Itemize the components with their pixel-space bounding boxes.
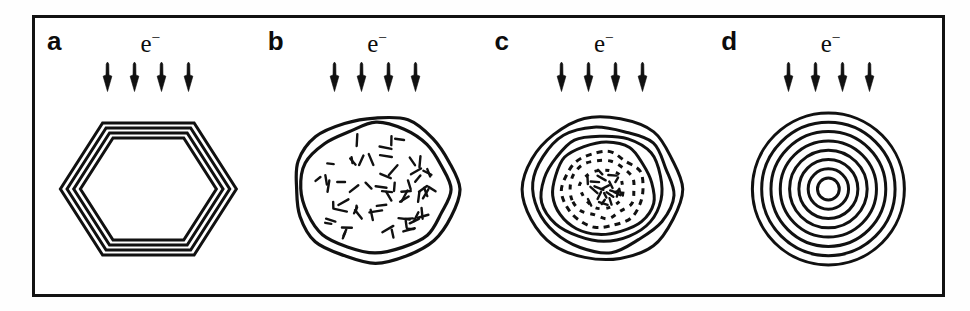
electron-symbol: e — [821, 30, 832, 57]
figure-root: ae−be−ce−de− — [0, 0, 970, 311]
electron-beam-arrow-icon — [836, 62, 849, 92]
structure-c — [489, 100, 716, 278]
disordered-carbon-dashes — [315, 134, 435, 238]
electron-beam-label-d: e− — [821, 30, 841, 56]
electron-charge-superscript: − — [605, 29, 614, 46]
panel-letter-c: c — [495, 28, 509, 54]
structure-a — [35, 100, 262, 278]
panel-d: de− — [715, 18, 942, 294]
electron-beam-arrow-icon — [863, 62, 876, 92]
electron-charge-superscript: − — [378, 29, 387, 46]
electron-beam-arrow-icon — [355, 62, 368, 92]
electron-beam-arrow-icon — [155, 62, 168, 92]
electron-beam-arrows-b — [328, 62, 422, 92]
electron-symbol: e — [367, 30, 378, 57]
electron-beam-arrow-icon — [101, 62, 114, 92]
electron-beam-label-b: e− — [367, 30, 387, 56]
electron-beam-arrow-icon — [609, 62, 622, 92]
panel-letter-b: b — [268, 28, 284, 54]
electron-beam-arrow-icon — [582, 62, 595, 92]
electron-beam-arrows-d — [782, 62, 876, 92]
panel-a: ae− — [35, 18, 262, 294]
electron-beam-arrow-icon — [328, 62, 341, 92]
panel-letter-d: d — [721, 28, 737, 54]
electron-symbol: e — [140, 30, 151, 57]
electron-beam-arrow-icon — [636, 62, 649, 92]
electron-beam-arrows-c — [555, 62, 649, 92]
figure-frame: ae−be−ce−de− — [32, 15, 945, 297]
electron-beam-arrows-a — [101, 62, 195, 92]
panel-b: be− — [262, 18, 489, 294]
electron-beam-arrow-icon — [382, 62, 395, 92]
electron-beam-arrow-icon — [809, 62, 822, 92]
structure-d — [715, 100, 942, 278]
panel-letter-a: a — [47, 28, 61, 54]
electron-beam-label-a: e− — [140, 30, 160, 56]
electron-beam-arrow-icon — [555, 62, 568, 92]
electron-beam-arrow-icon — [782, 62, 795, 92]
electron-beam-arrow-icon — [409, 62, 422, 92]
electron-charge-superscript: − — [151, 29, 160, 46]
structure-b — [262, 100, 489, 278]
disordered-carbon-dashes — [587, 170, 622, 206]
electron-charge-superscript: − — [832, 29, 841, 46]
electron-beam-arrow-icon — [182, 62, 195, 92]
electron-beam-label-c: e− — [594, 30, 614, 56]
electron-symbol: e — [594, 30, 605, 57]
panel-c: ce− — [489, 18, 716, 294]
electron-beam-arrow-icon — [128, 62, 141, 92]
